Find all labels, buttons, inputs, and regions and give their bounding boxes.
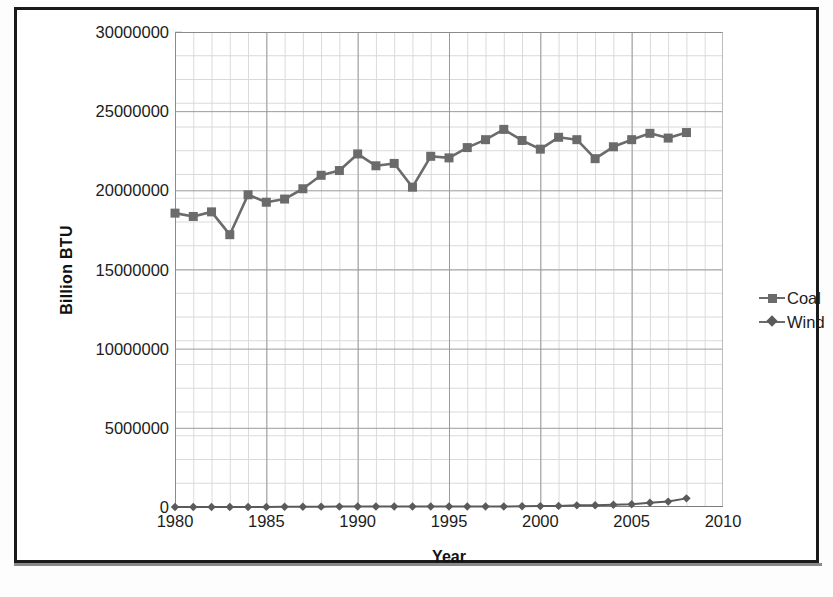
data-point-square — [554, 133, 563, 142]
data-point-square — [536, 145, 545, 154]
data-point-diamond — [554, 502, 562, 510]
data-point-diamond — [299, 503, 307, 511]
y-axis-tick-label: 20000000 — [29, 182, 169, 199]
chart-frame: 0500000010000000150000002000000025000000… — [14, 7, 819, 563]
series-coal — [171, 125, 691, 239]
x-axis-tick-label: 2005 — [587, 513, 677, 530]
data-point-square — [171, 209, 180, 218]
data-point-diamond — [591, 501, 599, 509]
series-wind — [171, 494, 691, 511]
data-point-diamond — [573, 501, 581, 509]
data-point-diamond — [244, 503, 252, 511]
data-point-square — [353, 149, 362, 158]
data-point-diamond — [627, 500, 635, 508]
data-point-square — [225, 230, 234, 239]
data-point-square — [317, 171, 326, 180]
y-axis-tick-label: 30000000 — [29, 24, 169, 41]
legend-marker-diamond-icon — [759, 316, 785, 328]
data-point-square — [408, 183, 417, 192]
data-point-diamond — [372, 502, 380, 510]
x-axis-tick-label: 2000 — [495, 513, 585, 530]
data-point-square — [445, 153, 454, 162]
chart-legend: Coal Wind — [759, 288, 833, 336]
data-point-diamond — [609, 501, 617, 509]
data-point-diamond — [664, 497, 672, 505]
data-point-square — [572, 135, 581, 144]
data-point-diamond — [518, 502, 526, 510]
data-point-diamond — [445, 502, 453, 510]
data-point-diamond — [280, 503, 288, 511]
data-point-diamond — [171, 503, 179, 511]
y-axis-title: Billion BTU — [58, 225, 76, 315]
y-axis-tick-label: 15000000 — [29, 261, 169, 278]
data-point-square — [664, 134, 673, 143]
y-axis-title-wrap: Billion BTU — [79, 32, 81, 507]
data-point-square — [390, 159, 399, 168]
data-point-square — [207, 207, 216, 216]
x-axis-tick-label: 1980 — [130, 513, 220, 530]
data-point-square — [426, 152, 435, 161]
data-point-diamond — [189, 503, 197, 511]
data-point-square — [645, 129, 654, 138]
data-point-square — [298, 184, 307, 193]
data-point-diamond — [353, 502, 361, 510]
data-point-square — [682, 128, 691, 137]
x-axis-title: Year — [175, 548, 723, 566]
data-point-diamond — [427, 502, 435, 510]
data-point-square — [463, 143, 472, 152]
data-point-diamond — [226, 503, 234, 511]
y-axis-tick-labels: 0500000010000000150000002000000025000000… — [23, 32, 169, 507]
legend-item-coal[interactable]: Coal — [759, 288, 833, 308]
data-point-square — [518, 136, 527, 145]
data-point-diamond — [390, 502, 398, 510]
data-point-square — [244, 190, 253, 199]
chart-page: 0500000010000000150000002000000025000000… — [0, 0, 833, 597]
x-axis-tick-label: 1985 — [221, 513, 311, 530]
y-axis-tick-label: 25000000 — [29, 103, 169, 120]
data-point-square — [627, 135, 636, 144]
data-point-diamond — [335, 502, 343, 510]
x-axis-tick-label: 1990 — [313, 513, 403, 530]
data-point-square — [609, 142, 618, 151]
data-point-square — [591, 154, 600, 163]
data-point-square — [371, 161, 380, 170]
legend-item-wind[interactable]: Wind — [759, 312, 833, 332]
legend-label-wind: Wind — [787, 313, 825, 332]
data-point-square — [262, 198, 271, 207]
data-point-square — [335, 166, 344, 175]
data-point-diamond — [646, 499, 654, 507]
x-axis-tick-labels: 1980198519901995200020052010 — [175, 513, 723, 543]
data-point-diamond — [682, 494, 690, 502]
series-layer — [175, 32, 723, 507]
data-point-square — [499, 125, 508, 134]
data-point-diamond — [408, 502, 416, 510]
data-point-diamond — [536, 502, 544, 510]
data-point-diamond — [262, 503, 270, 511]
x-axis-tick-label: 2010 — [678, 513, 768, 530]
y-axis-tick-label: 5000000 — [29, 420, 169, 437]
data-point-square — [481, 135, 490, 144]
x-axis-tick-label: 1995 — [404, 513, 494, 530]
data-point-square — [280, 195, 289, 204]
data-point-diamond — [463, 502, 471, 510]
data-point-diamond — [317, 502, 325, 510]
data-point-diamond — [481, 502, 489, 510]
legend-marker-square-icon — [759, 292, 785, 304]
y-axis-tick-label: 10000000 — [29, 340, 169, 357]
plot-area — [175, 32, 723, 507]
data-point-square — [189, 212, 198, 221]
data-point-diamond — [500, 502, 508, 510]
data-point-diamond — [207, 503, 215, 511]
legend-label-coal: Coal — [787, 289, 821, 308]
